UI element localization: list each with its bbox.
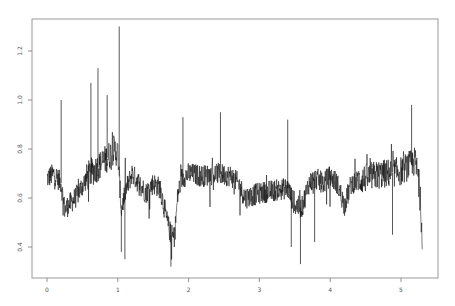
data-series-signal — [47, 27, 422, 267]
x-tick-label: 1 — [116, 286, 120, 293]
x-tick-label: 0 — [45, 286, 49, 293]
y-tick-label: 0.8 — [16, 144, 23, 154]
x-tick-label: 5 — [399, 286, 403, 293]
y-tick-label: 1.0 — [16, 95, 23, 105]
x-axis: 012345 — [45, 278, 403, 293]
y-tick-label: 0.6 — [16, 193, 23, 203]
x-tick-label: 3 — [257, 286, 261, 293]
y-tick-label: 0.4 — [16, 242, 23, 252]
x-tick-label: 2 — [187, 286, 191, 293]
x-tick-label: 4 — [328, 286, 332, 293]
plot-frame — [32, 19, 438, 278]
series-line — [47, 132, 422, 259]
time-series-chart: 012345 0.40.60.81.01.2 — [0, 0, 455, 306]
y-axis: 0.40.60.81.01.2 — [16, 46, 32, 252]
y-tick-label: 1.2 — [16, 46, 23, 56]
